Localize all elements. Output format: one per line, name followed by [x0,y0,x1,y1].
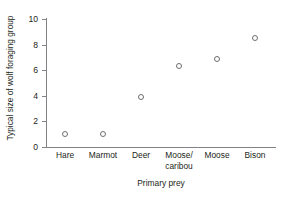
y-tick-label-4: 4 [8,92,38,101]
data-point-marmot[interactable] [100,131,106,137]
x-axis-line [46,147,276,148]
x-tick-label-bison-line1: Bison [245,150,266,160]
y-tick-label-10: 10 [8,15,38,24]
scatter-chart-figure: Typical size of wolf foraging group 10 8… [0,0,282,200]
x-axis-title: Primary prey [46,178,276,188]
y-tick-label-2: 2 [8,117,38,126]
y-tick-mark-10 [42,19,46,20]
data-point-hare[interactable] [62,131,68,137]
y-tick-mark-0 [42,147,46,148]
data-point-moose-caribou[interactable] [176,63,182,69]
x-tick-label-moose-caribou-line2: caribou [165,161,192,171]
y-axis-line [46,18,47,148]
data-point-deer[interactable] [138,94,144,100]
y-tick-mark-4 [42,96,46,97]
y-tick-mark-6 [42,70,46,71]
x-tick-label-moose-line1: Moose [204,150,229,160]
y-axis-title: Typical size of wolf foraging group [2,3,18,153]
y-tick-label-0: 0 [8,143,38,152]
y-tick-mark-8 [42,45,46,46]
x-tick-label-bison: Bison [227,150,282,161]
data-point-bison[interactable] [252,35,258,41]
y-tick-mark-2 [42,121,46,122]
x-tick-label-deer-line1: Deer [132,150,150,160]
y-tick-label-6: 6 [8,66,38,75]
x-tick-label-hare-line1: Hare [56,150,74,160]
data-point-moose[interactable] [214,56,220,62]
y-tick-label-8: 8 [8,41,38,50]
